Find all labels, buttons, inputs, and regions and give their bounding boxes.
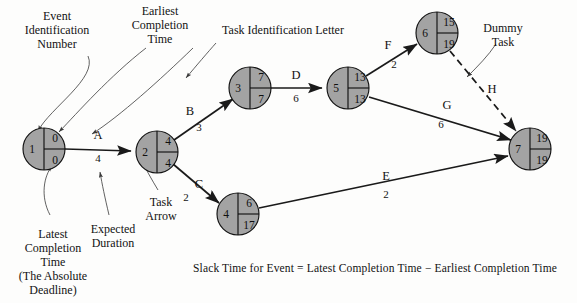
edge-label-B: B bbox=[186, 104, 194, 119]
leader-task-letter bbox=[186, 43, 216, 78]
node-6-event: 6 bbox=[422, 27, 428, 39]
event-node-3[interactable]: 3 7 7 bbox=[229, 67, 271, 109]
leader-event-id bbox=[38, 56, 89, 131]
leader-earliest-2 bbox=[92, 48, 193, 134]
leader-earliest bbox=[59, 48, 146, 132]
node-4-event: 4 bbox=[223, 208, 229, 220]
edge-duration-A: 4 bbox=[95, 152, 101, 165]
node-3-earliest: 7 bbox=[258, 71, 264, 83]
event-node-5[interactable]: 5 13 13 bbox=[327, 67, 369, 109]
node-7-latest: 19 bbox=[536, 154, 548, 166]
event-node-4[interactable]: 4 6 17 bbox=[217, 193, 259, 235]
leader-lines bbox=[38, 43, 496, 215]
annotation-task-arrow: TaskArrow bbox=[145, 196, 176, 224]
node-2-event: 2 bbox=[142, 146, 148, 158]
edge-label-H: H bbox=[487, 82, 496, 97]
edge-duration-B: 3 bbox=[196, 121, 202, 134]
event-node-2[interactable]: 2 4 4 bbox=[136, 131, 178, 173]
node-1-latest: 0 bbox=[52, 154, 58, 166]
annotation-latest: LatestCompletionTime(The AbsoluteDeadlin… bbox=[19, 228, 87, 298]
edge-label-G: G bbox=[442, 98, 451, 113]
node-6-latest: 19 bbox=[443, 38, 455, 50]
node-3-latest: 7 bbox=[258, 93, 264, 105]
node-5-earliest: 13 bbox=[354, 71, 366, 83]
node-5-latest: 13 bbox=[354, 93, 366, 105]
leader-duration bbox=[100, 172, 109, 215]
pert-diagram-canvas: 1 0 0 2 4 4 3 7 7 4 6 17 bbox=[0, 0, 577, 303]
edge-H-dummy bbox=[450, 51, 516, 131]
event-node-1[interactable]: 1 0 0 bbox=[23, 128, 65, 170]
edge-label-E: E bbox=[382, 169, 390, 184]
node-7-earliest: 19 bbox=[536, 132, 548, 144]
event-node-6[interactable]: 6 15 19 bbox=[416, 12, 458, 54]
node-5-event: 5 bbox=[333, 82, 339, 94]
node-3-event: 3 bbox=[235, 82, 241, 94]
edge-label-C: C bbox=[195, 177, 203, 192]
edge-label-A: A bbox=[93, 128, 102, 143]
node-6-earliest: 15 bbox=[443, 16, 455, 28]
edge-duration-F: 2 bbox=[391, 58, 397, 71]
annotation-dummy-task: DummyTask bbox=[483, 22, 522, 50]
edge-duration-C: 2 bbox=[183, 191, 189, 204]
annotation-event-id: EventIdentificationNumber bbox=[25, 10, 90, 52]
node-2-latest: 4 bbox=[165, 157, 171, 169]
leader-latest bbox=[44, 166, 52, 215]
node-4-latest: 17 bbox=[243, 219, 255, 231]
edge-B bbox=[174, 99, 233, 140]
node-2-earliest: 4 bbox=[165, 135, 171, 147]
edge-duration-D: 6 bbox=[293, 92, 299, 105]
node-1-earliest: 0 bbox=[52, 132, 58, 144]
edge-label-D: D bbox=[291, 68, 300, 83]
node-1-event: 1 bbox=[29, 143, 35, 155]
edge-duration-G: 6 bbox=[438, 118, 444, 131]
annotation-duration: ExpectedDuration bbox=[91, 223, 136, 251]
slack-time-caption: Slack Time for Event = Latest Completion… bbox=[193, 262, 557, 275]
node-7-event: 7 bbox=[515, 143, 521, 155]
node-4-earliest: 6 bbox=[246, 197, 252, 209]
edge-duration-E: 2 bbox=[383, 188, 389, 201]
annotation-earliest: EarliestCompletionTime bbox=[132, 5, 189, 47]
annotation-task-letter: Task Identification Letter bbox=[222, 24, 344, 38]
edge-A bbox=[65, 149, 131, 151]
edge-label-F: F bbox=[385, 38, 392, 53]
event-node-7[interactable]: 7 19 19 bbox=[509, 128, 551, 170]
